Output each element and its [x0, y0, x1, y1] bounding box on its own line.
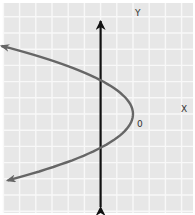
- x-axis-label: X: [181, 104, 187, 114]
- parabola-figure: Y X 0: [0, 0, 195, 215]
- vertex-label: 0: [137, 119, 143, 129]
- y-axis-label: Y: [134, 8, 141, 18]
- plot-background: [3, 3, 193, 213]
